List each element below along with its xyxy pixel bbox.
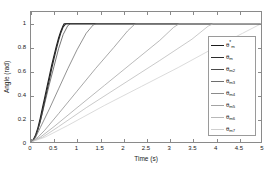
x-axis-title: Time (s) [134, 155, 158, 162]
legend-item-theta_m_ref[interactable]: θ*m [209, 39, 255, 51]
y-tick-label: 0 [23, 140, 26, 146]
x-tick-label: 5 [260, 145, 263, 151]
x-tick-mark [77, 12, 78, 15]
x-tick-mark [217, 12, 218, 15]
legend-color-swatch [211, 117, 224, 118]
legend-box[interactable]: θ*mθmθm2θm3θm4θm5θm6θm7 [208, 36, 256, 136]
y-tick-label: 1 [23, 20, 26, 26]
y-tick-mark [31, 48, 34, 49]
x-tick-label: 4.5 [235, 145, 243, 151]
x-tick-mark [147, 139, 148, 142]
legend-item-theta_m4[interactable]: θm4 [209, 87, 255, 99]
legend-item-label: θm [226, 54, 233, 60]
x-tick-mark [170, 12, 171, 15]
x-tick-mark [124, 12, 125, 15]
legend-item-label: θm2 [226, 66, 235, 72]
legend-item-label: θm6 [226, 114, 235, 120]
x-tick-label: 1 [75, 145, 78, 151]
legend-item-label: θm4 [226, 90, 235, 96]
figure-canvas: Angle (rad) Time (s) 00.511.522.533.544.… [0, 0, 278, 172]
legend-item-label: θm3 [226, 78, 235, 84]
x-tick-label: 2.5 [142, 145, 150, 151]
legend-color-swatch [211, 69, 224, 70]
x-tick-mark [240, 139, 241, 142]
x-tick-label: 2 [121, 145, 124, 151]
x-tick-label: 0 [28, 145, 31, 151]
y-tick-mark [31, 120, 34, 121]
legend-item-label: θm5 [226, 102, 235, 108]
y-tick-label: 0.8 [18, 44, 26, 50]
y-tick-mark [258, 96, 261, 97]
legend-color-swatch [211, 81, 224, 82]
legend-color-swatch [211, 93, 224, 94]
y-tick-mark [31, 72, 34, 73]
x-tick-mark [101, 12, 102, 15]
x-tick-mark [193, 12, 194, 15]
x-tick-label: 4 [214, 145, 217, 151]
legend-item-theta_m2[interactable]: θm2 [209, 63, 255, 75]
y-tick-mark [258, 72, 261, 73]
legend-color-swatch [211, 57, 224, 58]
y-tick-mark [258, 120, 261, 121]
y-tick-label: 0.6 [18, 68, 26, 74]
x-tick-mark [101, 139, 102, 142]
x-tick-mark [240, 12, 241, 15]
legend-item-theta_m7[interactable]: θm7 [209, 123, 255, 135]
x-tick-mark [31, 139, 32, 142]
x-tick-mark [217, 139, 218, 142]
x-tick-mark [31, 12, 32, 15]
x-tick-label: 0.5 [49, 145, 57, 151]
legend-color-swatch [211, 45, 224, 46]
x-tick-label: 3 [168, 145, 171, 151]
legend-item-theta_m5[interactable]: θm5 [209, 99, 255, 111]
y-tick-label: 0.4 [18, 92, 26, 98]
x-tick-label: 3.5 [188, 145, 196, 151]
x-tick-mark [193, 139, 194, 142]
y-axis-title: Angle (rad) [3, 61, 10, 93]
y-tick-mark [258, 48, 261, 49]
legend-color-swatch [211, 105, 224, 106]
y-tick-mark [31, 96, 34, 97]
x-tick-mark [54, 12, 55, 15]
y-tick-label: 0.2 [18, 116, 26, 122]
x-tick-mark [77, 139, 78, 142]
y-tick-mark [258, 24, 261, 25]
x-tick-label: 1.5 [95, 145, 103, 151]
legend-item-theta_m6[interactable]: θm6 [209, 111, 255, 123]
x-tick-mark [124, 139, 125, 142]
legend-item-label: θ*m [226, 42, 235, 49]
x-tick-mark [54, 139, 55, 142]
legend-item-theta_m3[interactable]: θm3 [209, 75, 255, 87]
legend-item-label: θm7 [226, 126, 235, 132]
legend-color-swatch [211, 129, 224, 130]
y-tick-mark [31, 24, 34, 25]
x-tick-mark [170, 139, 171, 142]
legend-item-theta_m[interactable]: θm [209, 51, 255, 63]
x-tick-mark [147, 12, 148, 15]
